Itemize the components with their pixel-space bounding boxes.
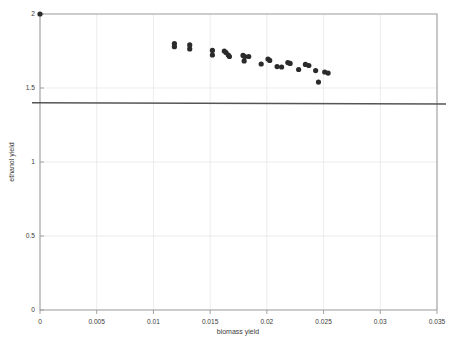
data-point (326, 70, 331, 75)
data-point (313, 68, 318, 73)
x-tick-label: 0.01 (147, 318, 160, 325)
y-tick-label: 0 (31, 306, 35, 313)
data-point (227, 54, 232, 59)
x-axis-tick-labels: 00.0050.010.0150.020.0250.030.035 (38, 318, 445, 325)
x-tick-label: 0.015 (202, 318, 219, 325)
data-point (296, 67, 301, 72)
chart-figure: 00.0050.010.0150.020.0250.030.035 00.511… (0, 0, 453, 346)
x-axis-title: biomass yield (217, 328, 260, 336)
data-point (210, 48, 215, 53)
x-tick-label: 0.035 (429, 318, 446, 325)
y-axis-tick-labels: 00.511.52 (26, 10, 36, 313)
x-tick-label: 0.025 (315, 318, 332, 325)
data-point (274, 64, 279, 69)
x-axis-tickmarks (40, 310, 437, 314)
data-point (279, 64, 284, 69)
scatter-plot-svg: 00.0050.010.0150.020.0250.030.035 00.511… (0, 0, 453, 346)
data-point (288, 61, 293, 66)
data-point (246, 54, 251, 59)
y-axis-title: ethanol yield (8, 142, 16, 181)
y-tick-label: 1.5 (26, 84, 35, 91)
y-tick-label: 0.5 (26, 232, 35, 239)
x-tick-label: 0.03 (374, 318, 387, 325)
data-point (242, 58, 247, 63)
data-point (187, 46, 192, 51)
x-tick-label: 0 (38, 318, 42, 325)
data-point (37, 11, 42, 16)
y-tick-label: 1 (31, 158, 35, 165)
data-point (210, 52, 215, 57)
data-point (316, 79, 321, 84)
x-tick-label: 0.005 (88, 318, 105, 325)
data-point (172, 44, 177, 49)
y-tick-label: 2 (31, 10, 35, 17)
x-tick-label: 0.02 (260, 318, 273, 325)
data-point (306, 63, 311, 68)
data-point (259, 61, 264, 66)
data-point (267, 58, 272, 63)
